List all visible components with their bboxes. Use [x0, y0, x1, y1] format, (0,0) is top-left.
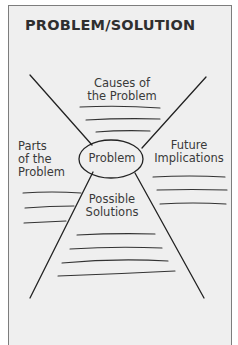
label-parts: Parts of the Problem — [18, 140, 68, 179]
answer-line-bottom-4[interactable] — [58, 271, 175, 276]
answer-line-right-1[interactable] — [153, 176, 225, 177]
answer-line-top-3[interactable] — [96, 131, 150, 132]
answer-line-bottom-1[interactable] — [77, 234, 155, 235]
answer-line-left-2[interactable] — [25, 206, 74, 208]
divider-lower-right — [135, 173, 204, 298]
label-solutions: Possible Solutions — [80, 193, 144, 219]
answer-line-top-2[interactable] — [86, 119, 160, 120]
answer-line-left-1[interactable] — [23, 192, 81, 193]
answer-line-right-2[interactable] — [157, 190, 227, 191]
label-center-problem: Problem — [82, 152, 142, 165]
answer-line-right-3[interactable] — [160, 203, 226, 204]
label-causes: Causes of the Problem — [80, 77, 164, 103]
answer-line-left-3[interactable] — [24, 221, 66, 223]
label-future: Future Implications — [148, 139, 230, 165]
answer-line-top-1[interactable] — [80, 106, 160, 108]
answer-line-bottom-2[interactable] — [70, 247, 162, 249]
answer-line-bottom-3[interactable] — [62, 260, 168, 263]
